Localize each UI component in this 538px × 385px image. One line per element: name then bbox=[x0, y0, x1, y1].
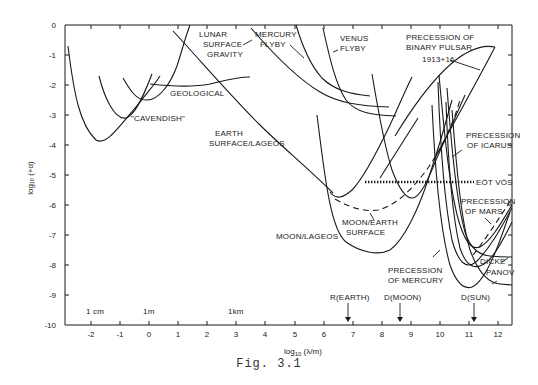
curve-icarus bbox=[439, 75, 512, 248]
label-moon-earth: MOON/EARTH bbox=[342, 218, 398, 227]
label-binary-pulsar: 1913+16 bbox=[422, 55, 455, 64]
arrow-mars bbox=[485, 218, 491, 224]
x-axis-title: log10 (λ/m) bbox=[284, 347, 322, 357]
y-tick-label: -6 bbox=[49, 201, 57, 210]
x-tick-label: 3 bbox=[234, 330, 239, 339]
label-venus-flyby: VENUS bbox=[340, 34, 369, 43]
chart-svg: -2 -1 0 1 2 3 4 5 6 7 8 9 10 11 12 0 -1 … bbox=[0, 0, 538, 385]
label-eotvos: EÖT VÖS bbox=[476, 178, 513, 187]
y-axis-ticks bbox=[65, 55, 512, 295]
curve-cavendish-1 bbox=[68, 46, 160, 141]
x-tick-labels: -2 -1 0 1 2 3 4 5 6 7 8 9 10 11 12 bbox=[87, 330, 503, 339]
y-tick-label: -3 bbox=[49, 111, 57, 120]
y-tick-label: -5 bbox=[49, 171, 57, 180]
y-tick-label: -2 bbox=[49, 81, 57, 90]
curve-earth-surface-lageos bbox=[330, 77, 412, 197]
label-icarus: PRECESSION bbox=[466, 131, 520, 140]
label-lunar: SURFACE bbox=[203, 40, 242, 49]
y-axis-title: log₁₀ (+α) bbox=[26, 161, 35, 195]
label-earth-surface: EARTH bbox=[215, 129, 243, 138]
label-moon-earth: SURFACE bbox=[346, 228, 385, 237]
label-d-moon: D(MOON) bbox=[384, 293, 422, 302]
x-tick-label: 9 bbox=[409, 330, 414, 339]
label-mars: OF MARS bbox=[465, 207, 503, 216]
y-tick-label: -9 bbox=[49, 291, 57, 300]
y-tick-label: -10 bbox=[44, 321, 56, 330]
label-precession-mercury: PRECESSION bbox=[388, 266, 442, 275]
label-1m: 1m bbox=[143, 307, 155, 316]
label-mercury-flyby: FLYBY bbox=[260, 40, 286, 49]
x-tick-label: 12 bbox=[494, 330, 503, 339]
x-tick-label: 4 bbox=[263, 330, 268, 339]
arrow-venus bbox=[333, 50, 338, 52]
x-tick-label: 0 bbox=[147, 330, 152, 339]
x-tick-label: 8 bbox=[380, 330, 385, 339]
label-venus-flyby: FLYBY bbox=[340, 44, 366, 53]
label-panov: PANOV bbox=[486, 268, 515, 277]
label-precession-mercury: OF MERCURY bbox=[388, 276, 444, 285]
x-tick-label: -1 bbox=[116, 330, 124, 339]
label-lunar: LUNAR bbox=[199, 30, 227, 39]
curve-geological bbox=[150, 77, 250, 86]
label-1km: 1km bbox=[228, 307, 244, 316]
figure: -2 -1 0 1 2 3 4 5 6 7 8 9 10 11 12 0 -1 … bbox=[0, 0, 538, 385]
y-tick-label: -4 bbox=[49, 141, 57, 150]
label-1cm: 1 cm bbox=[86, 307, 104, 316]
label-r-earth: R(EARTH) bbox=[330, 293, 370, 302]
label-lunar: GRAVITY bbox=[207, 50, 243, 59]
label-mercury-flyby: MERCURY bbox=[255, 30, 297, 39]
label-moon-lageos: MOON/LAGEOS bbox=[276, 232, 338, 241]
x-tick-label: 1 bbox=[176, 330, 181, 339]
reference-arrows bbox=[345, 303, 477, 322]
x-tick-label: 10 bbox=[436, 330, 445, 339]
label-d-sun: D(SUN) bbox=[461, 293, 490, 302]
label-cavendish: "CAVENDISH" bbox=[131, 114, 185, 123]
arrow-lunar bbox=[243, 40, 252, 45]
label-dicke: DICKE bbox=[480, 257, 505, 266]
y-tick-label: 0 bbox=[52, 21, 57, 30]
label-icarus: OF ICARUS bbox=[467, 141, 512, 150]
curve-lunar-surface-gravity bbox=[173, 31, 333, 193]
y-tick-label: -1 bbox=[49, 51, 57, 60]
x-tick-label: -2 bbox=[87, 330, 95, 339]
arrow-icarus bbox=[452, 150, 462, 157]
y-tick-labels: 0 -1 -2 -3 -4 -5 -6 -7 -8 -9 -10 bbox=[44, 21, 56, 330]
label-earth-surface: SURFACE/LAGEOS bbox=[209, 139, 285, 148]
label-mars: PRECESSION bbox=[461, 197, 515, 206]
arrow-mercury bbox=[290, 45, 304, 58]
x-tick-label: 7 bbox=[351, 330, 356, 339]
y-tick-label: -7 bbox=[49, 231, 57, 240]
arrow-mercprec bbox=[433, 250, 440, 257]
x-tick-label: 5 bbox=[293, 330, 298, 339]
label-binary-pulsar: BINARY PULSAR bbox=[406, 43, 472, 52]
x-tick-label: 2 bbox=[205, 330, 210, 339]
y-tick-label: -8 bbox=[49, 261, 57, 270]
label-geological: GEOLOGICAL bbox=[170, 89, 225, 98]
x-tick-label: 6 bbox=[322, 330, 327, 339]
label-binary-pulsar: PRECESSION OF bbox=[406, 33, 474, 42]
x-tick-label: 11 bbox=[465, 330, 474, 339]
figure-caption: Fig. 3.1 bbox=[0, 357, 538, 371]
